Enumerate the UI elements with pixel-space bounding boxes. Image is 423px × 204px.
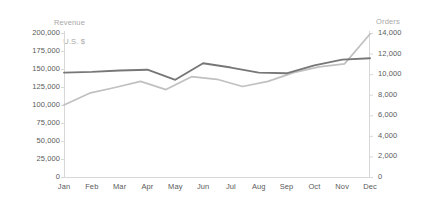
plot-area — [0, 0, 423, 204]
dual-axis-line-chart: Revenue U.S. $ Orders 200,000175,000150,… — [0, 0, 423, 204]
revenue-series-line — [64, 58, 370, 80]
right-axis-tick-marks — [370, 34, 373, 178]
orders-series-line — [64, 34, 370, 105]
